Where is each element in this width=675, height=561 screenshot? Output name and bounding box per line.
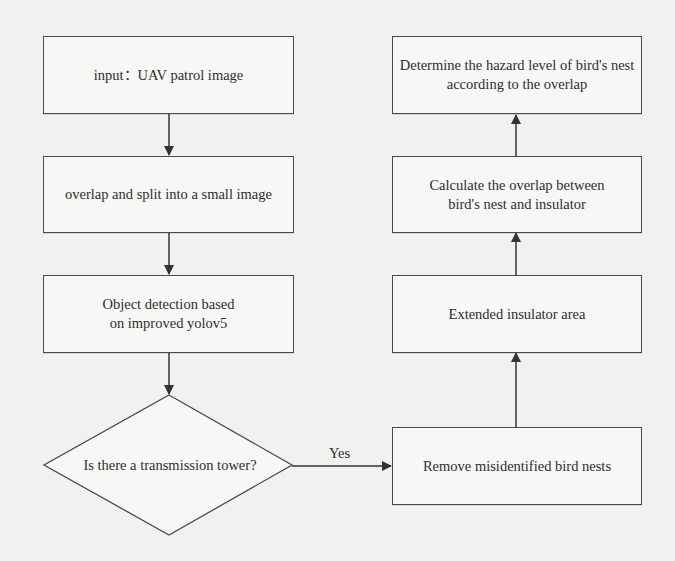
node-detect: Object detection based on improved yolov… [43,275,294,353]
node-overlap-label: Calculate the overlap between bird's nes… [415,176,619,214]
node-extend-label: Extended insulator area [449,305,586,324]
node-decision-label: Is there a transmission tower? [83,455,256,476]
node-split: overlap and split into a small image [43,156,294,233]
node-extend: Extended insulator area [392,275,642,353]
node-hazard: Determine the hazard level of bird's nes… [392,36,642,114]
node-overlap: Calculate the overlap between bird's nes… [392,156,642,233]
node-hazard-label: Determine the hazard level of bird's nes… [399,56,635,94]
node-detect-label: Object detection based on improved yolov… [94,295,243,333]
edge-label-yes: Yes [329,445,350,461]
flowchart-canvas: input：UAV patrol image overlap and split… [0,0,675,561]
node-input-label: input：UAV patrol image [94,66,244,85]
node-split-label: overlap and split into a small image [65,185,272,204]
node-remove: Remove misidentified bird nests [392,427,642,505]
node-decision: Is there a transmission tower? [72,440,268,490]
node-input: input：UAV patrol image [43,36,294,114]
node-remove-label: Remove misidentified bird nests [423,457,611,476]
